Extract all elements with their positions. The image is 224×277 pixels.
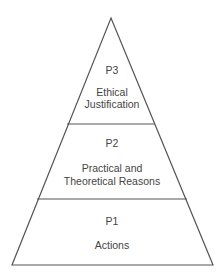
level-p3-code: P3 — [0, 64, 224, 76]
level-p3-label-line2: Justification — [0, 98, 224, 110]
level-p1-label-line1: Actions — [0, 239, 224, 251]
level-p2-label-line2: Theoretical Reasons — [0, 175, 224, 187]
level-p2-label-line1: Practical and — [0, 162, 224, 174]
level-p3-label-line1: Ethical — [0, 86, 224, 98]
level-p2-code: P2 — [0, 137, 224, 149]
level-p1-code: P1 — [0, 215, 224, 227]
